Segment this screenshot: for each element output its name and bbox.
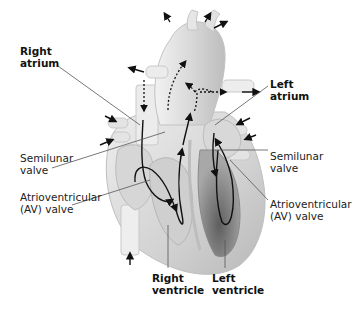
label-av-valve-left: Atrioventricular (AV) valve: [20, 191, 102, 215]
label-semilunar-valve-left: Semilunar valve: [20, 152, 73, 176]
label-left-ventricle: Left ventricle: [212, 272, 264, 296]
label-left-atrium: Left atrium: [270, 78, 309, 102]
heart-body: [106, 10, 265, 274]
label-av-valve-right: Atrioventricular (AV) valve: [270, 198, 352, 222]
label-right-atrium: Right atrium: [20, 45, 59, 69]
label-semilunar-valve-right: Semilunar valve: [270, 150, 323, 174]
label-right-ventricle: Right ventricle: [152, 272, 204, 296]
